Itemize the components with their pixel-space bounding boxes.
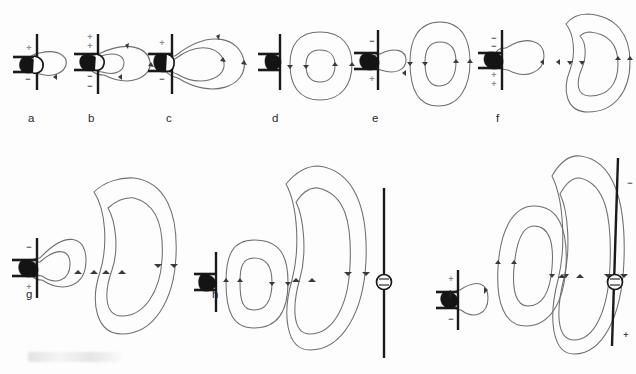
antenna-h [194,252,216,312]
charge-sign-bottom: − [87,71,92,81]
arrowhead [576,274,584,278]
detector-ring [377,275,392,290]
detector-ring [608,275,623,290]
receiver-antenna-h [377,188,392,358]
detached-loops-d [287,32,355,100]
detached-loops-h-inner [223,240,291,328]
receiver-sign-top: − [627,178,632,188]
arrowhead [292,278,300,282]
arrowhead [332,62,338,66]
panel-label-h: h [212,288,219,300]
arrowhead [90,270,98,274]
arrowhead [102,270,110,274]
arrowhead [344,272,352,276]
charge-sign-top: − [26,242,31,252]
arrowhead [118,74,122,80]
paper-smudge [28,352,124,362]
detached-loops-h-outer [286,166,370,350]
detached-loops-g [94,178,178,334]
antenna-i [436,270,458,330]
detached-loops-e [407,22,473,106]
panel-f: − − + + [470,10,636,118]
antenna-e [354,30,379,90]
panel-label-b: b [88,112,95,124]
arrowhead [241,60,247,65]
arrowhead [422,62,428,66]
arrowhead [170,264,178,268]
panel-h [192,162,398,354]
arrowhead [495,260,501,264]
charge-sign-bottom-2: − [87,81,92,91]
charge-sign-top: − [369,36,374,46]
charge-sign-bottom-2: + [491,79,496,89]
charge-sign-bottom: − [448,314,453,324]
panel-label-f: f [496,112,499,124]
panel-label-c: c [166,112,172,124]
detached-loops-f [566,14,633,112]
charge-sign-top: + [448,274,453,284]
arrowhead [223,278,229,282]
arrowhead [407,62,413,66]
receiver-sign-bottom: + [623,330,628,340]
panel-label-e: e [372,112,379,124]
charge-sign-bottom: − [159,74,164,84]
arrowhead [269,282,275,286]
detached-loops-i-inner [495,206,569,326]
figure-canvas: + − a + + − − b [0,0,636,374]
panel-label-i: i [449,288,452,300]
charge-sign-bottom: − [25,74,30,84]
charge-sign-top-2: + [87,41,92,51]
arrowhead [303,65,309,69]
arrowhead [308,278,316,282]
panel-label-d: d [272,112,279,124]
arrowhead [556,59,560,65]
receiver-antenna-i: − + [608,158,633,346]
field-lines-g [28,239,98,286]
arrowhead [237,278,243,282]
arrowhead [627,56,633,60]
panel-i: + − − + [428,150,634,360]
arrowhead [118,270,126,274]
panel-e: − + [348,20,474,114]
charge-sign-top: + [26,43,31,53]
arrowhead [362,272,370,276]
panel-g: − + [6,170,184,346]
panel-d [250,26,358,110]
arrowhead [220,57,226,62]
panel-label-g: g [26,288,33,300]
panel-label-a: a [28,112,35,124]
field-lines-f [495,41,560,75]
arrowhead [511,260,517,264]
arrowhead [549,274,555,278]
charge-sign-top-2: − [491,41,496,51]
charge-sign-bottom: + [369,74,374,84]
charge-sign-top: + [159,38,164,48]
arrowhead [615,56,621,60]
arrowhead [453,59,459,63]
arrowhead [287,65,293,69]
antenna-d [258,34,281,90]
arrowhead [74,270,82,274]
arrowhead [402,70,406,76]
panel-c: + − [140,16,256,112]
